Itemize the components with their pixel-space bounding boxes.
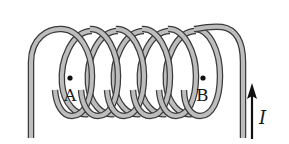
- point-a-dot: [67, 75, 72, 80]
- point-b-dot: [200, 75, 205, 80]
- current-arrow: I: [247, 83, 267, 139]
- point-a: A: [63, 75, 77, 105]
- point-b-label: B: [196, 85, 209, 105]
- current-label: I: [258, 107, 267, 128]
- point-a-label: A: [63, 85, 77, 105]
- solenoid-diagram: A B I: [0, 0, 289, 144]
